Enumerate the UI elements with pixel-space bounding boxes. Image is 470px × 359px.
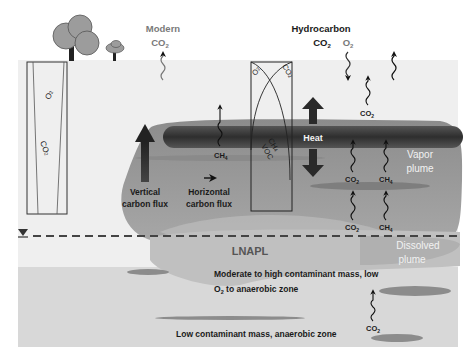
low-zone-label: Low contaminant mass, anaerobic zone [176,329,337,339]
moderate-zone-label-line1: Moderate to high contaminant mass, low [214,269,379,279]
lens-2 [379,286,451,296]
horizontal-flux-label-line1: Horizontal [188,187,230,197]
lnapl-label: LNAPL [232,245,269,257]
vapor-plume-label-line1: Vapor [407,149,434,160]
carbon-flux-diagram: Modern CO2 Hydrocarbon CO2 O2 O2 CO2 O2 … [0,0,470,359]
lens-1 [127,269,169,275]
lens-3 [155,316,305,320]
dissolved-plume-label-line2: plume [398,254,426,265]
modern-co2-label-line1: Modern [146,23,181,34]
vertical-flux-label-line1: Vertical [130,187,160,197]
horizontal-flux-label-line2: carbon flux [186,199,232,209]
modern-co2-label-line2: CO2 [151,37,169,49]
dissolved-plume-label-line1: Dissolved [396,240,439,251]
tree-large-icon [53,15,99,61]
hydrocarbon-co2-label-line2: CO2 [313,37,331,49]
vapor-plume-label-line2: plume [406,163,434,174]
hydrocarbon-co2-label-line1: Hydrocarbon [291,23,350,34]
vertical-flux-label-line2: carbon flux [122,199,168,209]
heat-label: Heat [303,133,323,143]
tree-small-icon [106,41,124,62]
lens-4 [371,334,423,342]
moderate-zone-label-line2: O2 to anaerobic zone [214,284,299,295]
o2-top-label: O2 [343,37,354,49]
